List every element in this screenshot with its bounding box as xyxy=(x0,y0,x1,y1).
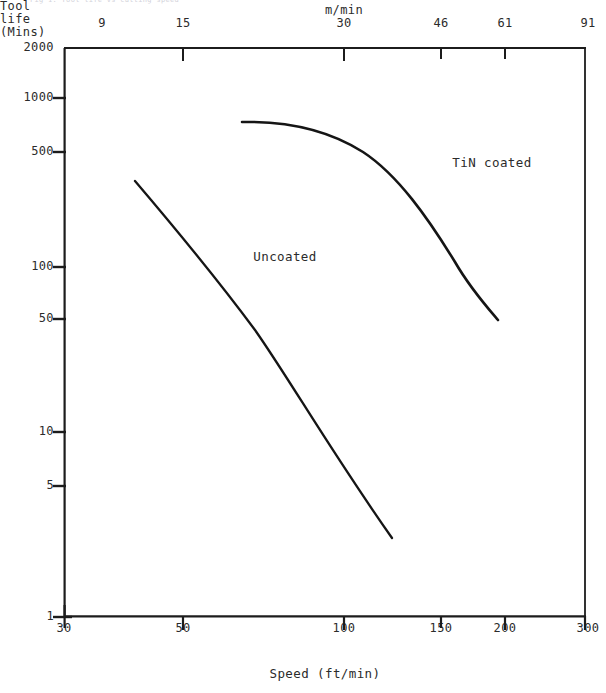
top-axis-ticks xyxy=(183,48,505,61)
y-axis-ticks xyxy=(53,98,72,617)
series-curve-tin-coated xyxy=(242,122,498,320)
plot-area xyxy=(0,0,606,693)
series-curve-uncoated xyxy=(135,181,392,538)
chart-figure: Fig 1. Tool life vs cutting speed m/min … xyxy=(0,0,606,693)
